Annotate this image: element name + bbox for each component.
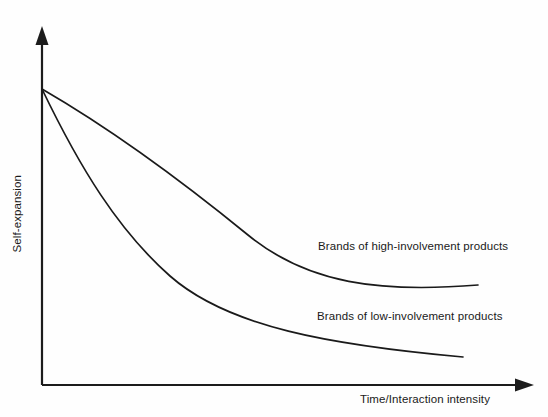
arrow-right-icon — [515, 379, 534, 392]
arrow-up-icon — [36, 26, 49, 45]
y-axis-label-container: Self-expansion — [0, 160, 36, 270]
y-axis-label: Self-expansion — [12, 159, 24, 269]
series-label-low-involvement: Brands of low-involvement products — [317, 311, 503, 323]
chart-canvas — [0, 0, 548, 417]
x-axis-label: Time/Interaction intensity — [360, 394, 490, 406]
chart-figure: Brands of high-involvement products Bran… — [0, 0, 548, 417]
curve-high-involvement — [42, 89, 478, 288]
series-label-high-involvement: Brands of high-involvement products — [318, 241, 508, 253]
